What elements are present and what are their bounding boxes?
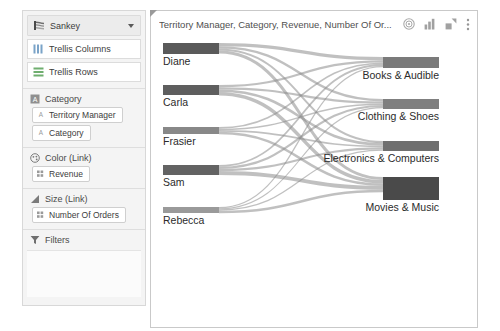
- sankey-node-target[interactable]: [383, 177, 439, 200]
- visualization-panel: Territory Manager, Category, Revenue, Nu…: [150, 10, 478, 328]
- kebab-menu-icon[interactable]: [466, 18, 470, 31]
- sankey-node-source[interactable]: [163, 85, 219, 95]
- section-color-link: Color (Link) Revenue: [23, 147, 145, 182]
- section-size-link: Size (Link) Number Of Orders: [23, 188, 145, 223]
- sankey-link[interactable]: [219, 191, 383, 212]
- mark-type-label: Sankey: [50, 21, 80, 31]
- section-header: Color (Link): [23, 151, 145, 164]
- chart-header: Territory Manager, Category, Revenue, Nu…: [151, 11, 477, 37]
- sankey-node-label: Movies & Music: [365, 201, 439, 213]
- sankey-node-label: Frasier: [163, 135, 196, 147]
- pill-label: Number Of Orders: [49, 210, 119, 220]
- sankey-node-target[interactable]: [383, 141, 439, 151]
- sankey-links: [219, 45, 383, 212]
- sankey-node-source[interactable]: [163, 165, 219, 175]
- svg-text:A: A: [33, 96, 38, 103]
- sankey-node-source[interactable]: [163, 127, 219, 134]
- sankey-node-label: Rebecca: [163, 214, 205, 226]
- attribute-icon: A: [37, 129, 45, 137]
- sankey-node-label: Carla: [163, 96, 188, 108]
- section-title: Filters: [45, 235, 70, 245]
- color-palette-icon: [30, 153, 40, 163]
- pill-label: Revenue: [49, 169, 83, 179]
- shelf-label: Trellis Rows: [49, 67, 98, 77]
- measure-icon: [37, 170, 45, 178]
- svg-text:A: A: [39, 129, 44, 136]
- measure-icon: [37, 211, 45, 219]
- section-title: Color (Link): [45, 153, 92, 163]
- svg-text:A: A: [39, 111, 44, 118]
- sankey-node-source[interactable]: [163, 43, 219, 54]
- sankey-diagram: DianeCarlaFrasierSamRebeccaBooks & Audib…: [151, 37, 477, 327]
- pill-category[interactable]: A Category: [32, 125, 91, 141]
- attribute-icon: A: [30, 94, 40, 104]
- attribute-icon: A: [37, 111, 45, 119]
- section-title: Category: [45, 94, 82, 104]
- shelf-label: Trellis Columns: [49, 44, 111, 54]
- sankey-node-target[interactable]: [383, 57, 439, 68]
- sankey-node-label: Books & Audible: [363, 69, 440, 81]
- size-bars-icon: [30, 194, 40, 204]
- shelf-trellis-rows[interactable]: Trellis Rows: [27, 62, 141, 82]
- chart-title: Territory Manager, Category, Revenue, Nu…: [159, 19, 397, 30]
- section-category: A Category A Territory Manager A Categor…: [23, 88, 145, 141]
- marks-sidebar: Sankey Trellis Columns Trellis Rows: [22, 10, 146, 306]
- target-icon[interactable]: [403, 18, 415, 30]
- trellis-columns-icon: [33, 44, 44, 54]
- pill-number-of-orders[interactable]: Number Of Orders: [32, 207, 126, 223]
- section-title: Size (Link): [45, 194, 88, 204]
- pill-revenue[interactable]: Revenue: [32, 166, 90, 182]
- sankey-node-label: Sam: [163, 176, 185, 188]
- mark-type-selector[interactable]: Sankey: [27, 15, 141, 36]
- section-header: Size (Link): [23, 192, 145, 205]
- pill-territory-manager[interactable]: A Territory Manager: [32, 107, 123, 123]
- chevron-down-icon[interactable]: [128, 24, 134, 28]
- section-header: A Category: [23, 92, 145, 105]
- sankey-node-label: Diane: [163, 55, 191, 67]
- filter-funnel-icon: [30, 235, 40, 245]
- pill-label: Territory Manager: [49, 110, 116, 120]
- filters-drop-area[interactable]: [27, 250, 141, 297]
- pill-label: Category: [49, 128, 84, 138]
- section-header: Filters: [23, 233, 145, 246]
- sankey-node-target[interactable]: [383, 99, 439, 109]
- shelf-trellis-columns[interactable]: Trellis Columns: [27, 39, 141, 59]
- chart-header-icons: [403, 18, 470, 31]
- bar-chart-icon[interactable]: [424, 18, 436, 30]
- sankey-node-label: Clothing & Shoes: [358, 110, 439, 122]
- sankey-node-label: Electronics & Computers: [323, 152, 439, 164]
- sankey-node-source[interactable]: [163, 207, 219, 213]
- sankey-nodes: DianeCarlaFrasierSamRebeccaBooks & Audib…: [163, 43, 439, 226]
- section-filters: Filters: [23, 229, 145, 297]
- trellis-rows-icon: [33, 67, 44, 77]
- sankey-icon: [33, 20, 45, 31]
- expand-icon[interactable]: [445, 18, 457, 30]
